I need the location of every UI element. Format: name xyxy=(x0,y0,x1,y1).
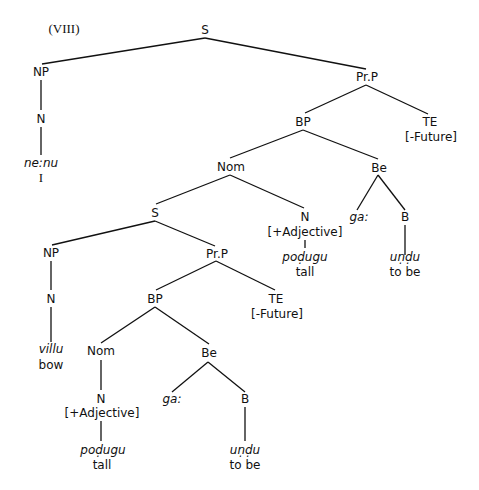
node-ga-2: ga: xyxy=(162,392,181,406)
word-undu-1: uṇḍu xyxy=(390,250,420,264)
word-podugu-2: poḍugu xyxy=(80,443,125,457)
feature-future-1: [-Future] xyxy=(405,130,457,144)
gloss-tobe-2: to be xyxy=(230,458,261,472)
node-bp-1: BP xyxy=(295,115,310,129)
word-nenu: ne:nu xyxy=(24,156,58,170)
node-b-1: B xyxy=(401,210,409,224)
node-n-adj-2: N xyxy=(97,392,106,406)
node-ga-1: ga: xyxy=(349,210,368,224)
word-undu-2: uṇḍu xyxy=(230,443,260,457)
gloss-tall-1: tall xyxy=(296,265,315,279)
node-prp-2: Pr.P xyxy=(206,247,228,261)
figure-label: (VIII) xyxy=(48,22,79,36)
node-bp-2: BP xyxy=(147,292,162,306)
node-nom-1: Nom xyxy=(217,160,245,174)
feature-adjective-1: [+Adjective] xyxy=(268,225,343,239)
word-podugu-1: poḍugu xyxy=(282,250,327,264)
node-be-1: Be xyxy=(371,161,387,175)
word-villu: villu xyxy=(39,342,64,356)
gloss-tobe-1: to be xyxy=(390,265,421,279)
feature-adjective-2: [+Adjective] xyxy=(65,406,140,420)
node-s-root: S xyxy=(201,23,209,37)
node-be-2: Be xyxy=(201,346,217,360)
node-b-2: B xyxy=(241,392,249,406)
feature-future-2: [-Future] xyxy=(251,307,303,321)
node-nom-2: Nom xyxy=(87,344,115,358)
gloss-i: I xyxy=(39,171,43,185)
node-n-1: N xyxy=(37,112,46,126)
node-te-2: TE xyxy=(269,292,284,306)
node-te-1: TE xyxy=(423,115,438,129)
gloss-bow: bow xyxy=(39,358,64,372)
node-n-2: N xyxy=(47,292,56,306)
node-s-embedded: S xyxy=(151,206,159,220)
gloss-tall-2: tall xyxy=(93,458,112,472)
node-prp-1: Pr.P xyxy=(356,70,378,84)
node-n-adj-1: N xyxy=(301,210,310,224)
node-np-1: NP xyxy=(33,65,49,79)
node-np-2: NP xyxy=(43,246,59,260)
